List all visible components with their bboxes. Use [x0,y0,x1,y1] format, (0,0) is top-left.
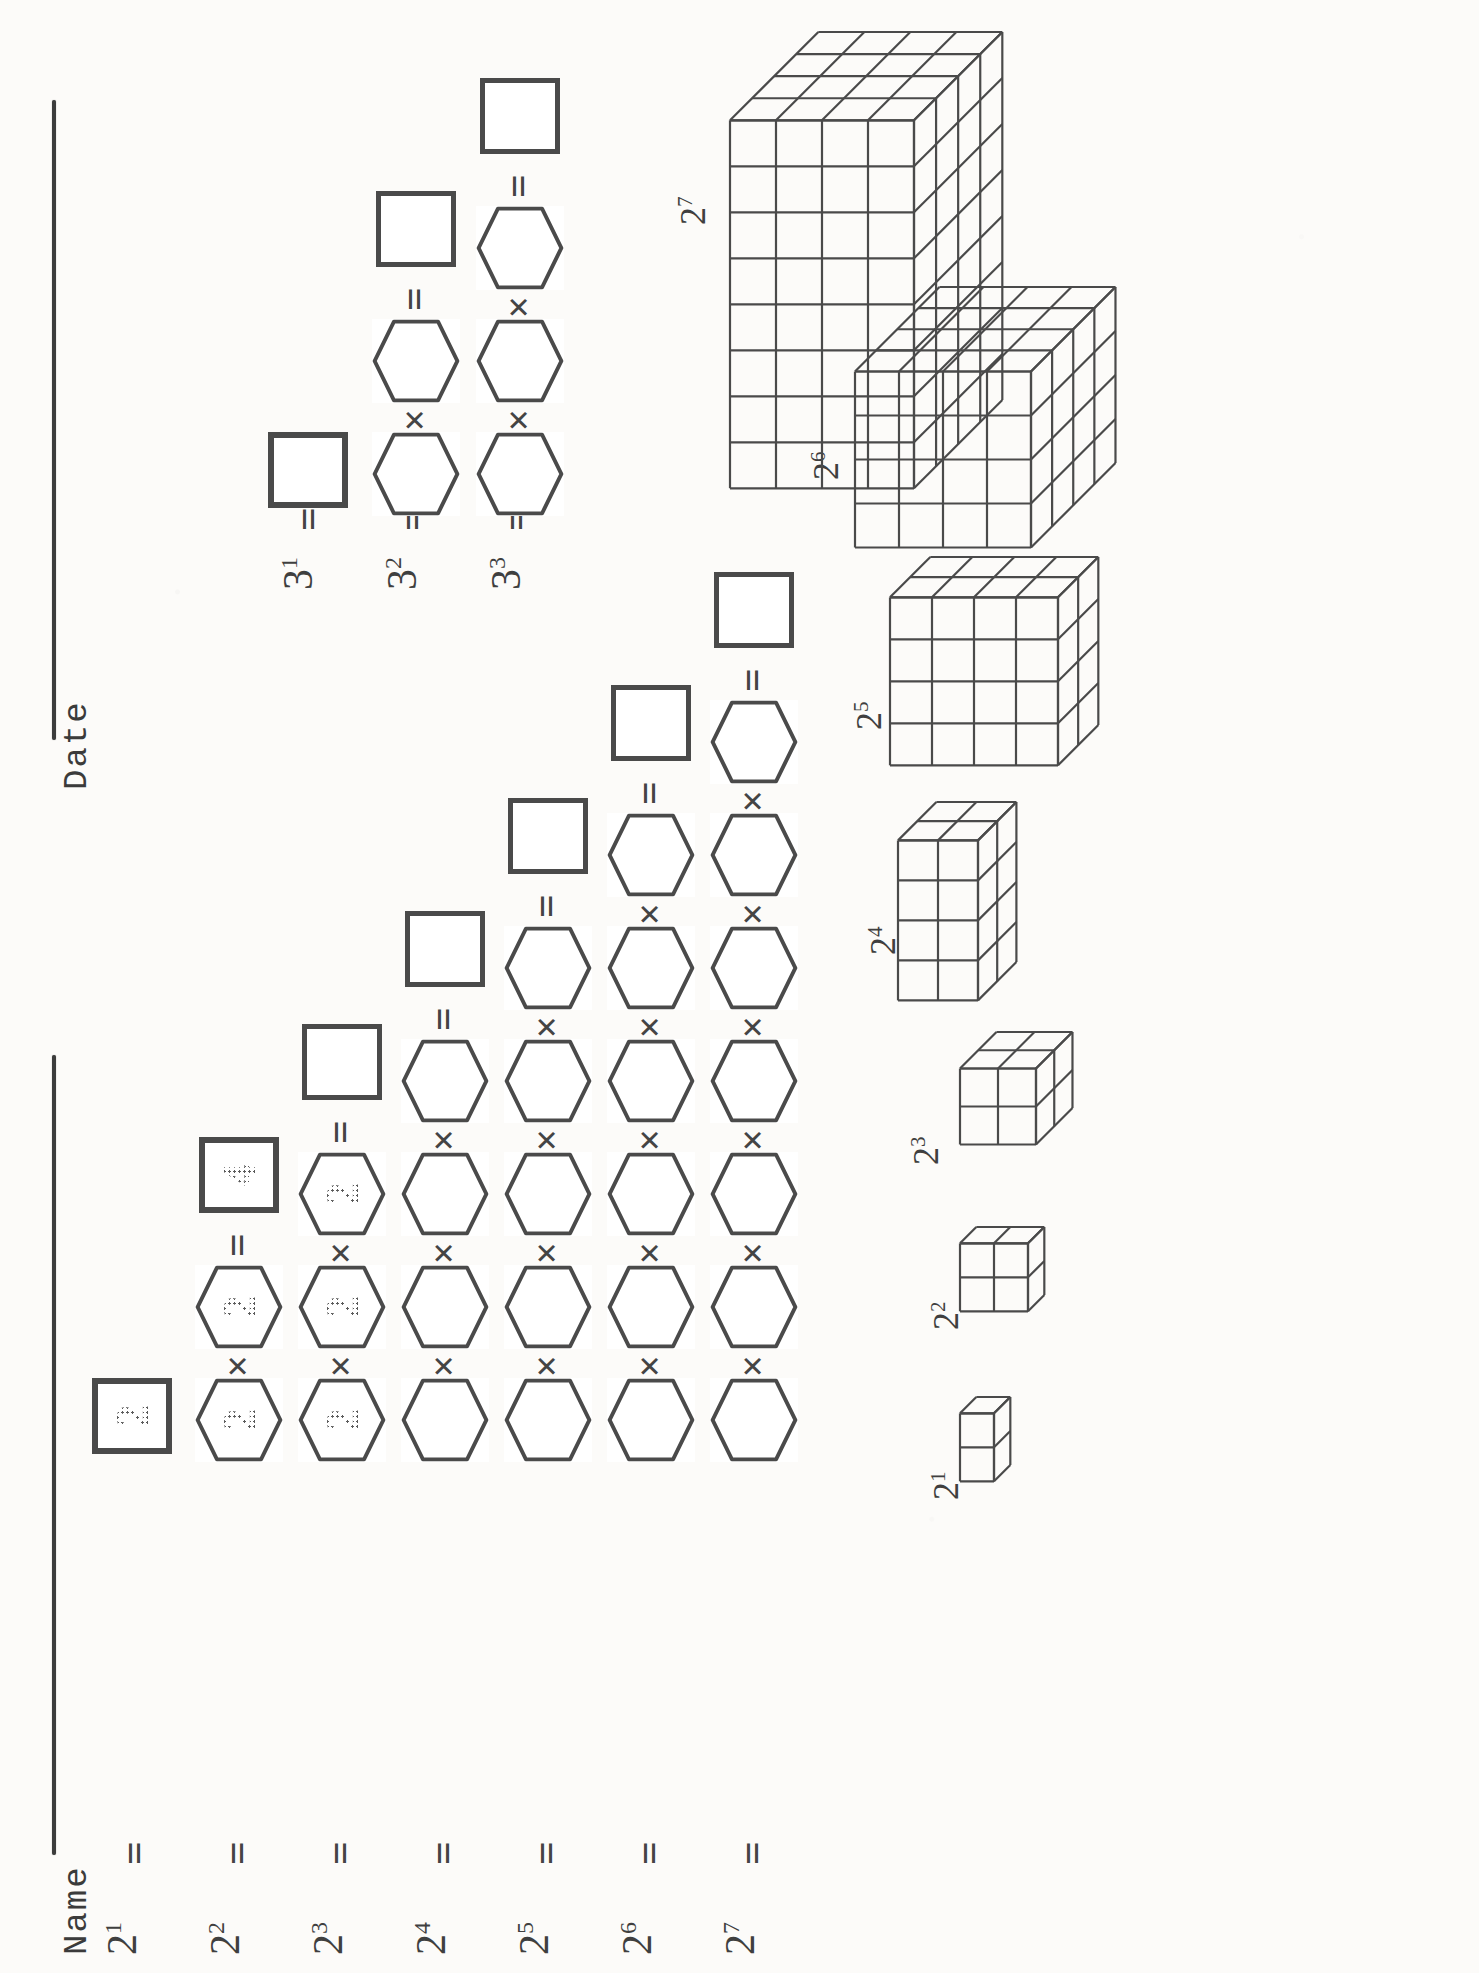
equals-operator: = [214,1823,260,1883]
result-square[interactable] [376,191,456,267]
volume-model-label-2-pow-5: 25 [848,702,890,731]
result-square[interactable] [268,432,348,508]
row-label-2-pow-7: 27 [716,1922,764,1955]
equals-operator: = [629,765,669,821]
equals-operator: = [317,1823,363,1883]
row-label-exponent: 4 [409,1922,435,1934]
cube-label-base: 2 [849,712,889,730]
row-label-exponent: 2 [380,557,406,569]
equals-operator: = [626,1823,672,1883]
equals-operator: = [217,1217,257,1273]
result-square[interactable]: 2 [92,1378,172,1454]
row-label-base: 3 [275,569,321,590]
row-label-base: 2 [305,1934,351,1955]
row-label-2-pow-5: 25 [510,1922,558,1955]
cell-value: 2 [197,1263,281,1351]
row-label-base: 2 [408,1934,454,1955]
row-label-exponent: 1 [100,1922,126,1934]
cube-label-base: 2 [673,207,713,225]
volume-model-2-pow-3 [950,1020,1086,1156]
row-label-base: 2 [717,1934,763,1955]
cell-value: 2 [100,1382,164,1450]
factor-hexagon[interactable] [607,813,695,897]
equals-operator: = [523,1823,569,1883]
volume-model-label-2-pow-4: 24 [862,927,904,956]
result-square[interactable] [302,1024,382,1100]
result-square[interactable] [405,911,485,987]
result-square[interactable] [611,685,691,761]
row-label-exponent: 5 [512,1922,538,1934]
cell-value: 4 [207,1141,271,1209]
cell-value: 2 [300,1150,384,1238]
row-label-exponent: 1 [276,557,302,569]
factor-hexagon[interactable]: 2 [298,1152,386,1236]
row-label-base: 2 [202,1934,248,1955]
equals-operator: = [498,158,538,214]
cube-label-exponent: 5 [849,702,873,713]
result-square[interactable] [480,78,560,154]
factor-hexagon[interactable] [476,206,564,290]
volume-model-2-pow-4 [888,790,1030,1012]
row-label-2-pow-1: 21 [98,1922,146,1955]
row-label-exponent: 2 [203,1922,229,1934]
equals-operator: = [111,1823,157,1883]
row-label-3-pow-3: 33 [482,557,530,590]
equals-operator: = [394,271,434,327]
row-label-base: 3 [483,569,529,590]
row-label-exponent: 3 [306,1922,332,1934]
name-write-line[interactable] [52,1055,56,1855]
cube-label-base: 2 [926,1312,966,1330]
volume-model-2-pow-5 [880,545,1112,777]
factor-hexagon[interactable] [710,700,798,784]
equals-operator: = [526,878,566,934]
factor-hexagon[interactable] [401,1039,489,1123]
row-label-2-pow-2: 22 [201,1922,249,1955]
row-label-2-pow-3: 23 [304,1922,352,1955]
result-square[interactable] [508,798,588,874]
row-label-base: 3 [379,569,425,590]
date-write-line[interactable] [52,100,56,740]
equals-operator: = [732,652,772,708]
row-label-3-pow-1: 31 [274,557,322,590]
equals-operator: = [420,1823,466,1883]
cube-label-base: 2 [863,937,903,955]
cube-label-exponent: 1 [926,1472,950,1483]
equals-operator: = [423,991,463,1047]
factor-hexagon[interactable]: 2 [195,1265,283,1349]
row-label-exponent: 7 [718,1922,744,1934]
equals-operator: = [320,1104,360,1160]
row-label-2-pow-4: 24 [407,1922,455,1955]
volume-model-label-2-pow-2: 22 [925,1302,967,1331]
cube-label-exponent: 2 [926,1302,950,1313]
worksheet-page: Name Date 21=222=2×2=423=2×2×2=24=×××=25… [0,0,1479,1973]
row-label-base: 2 [614,1934,660,1955]
cube-label-base: 2 [906,1147,946,1165]
row-label-exponent: 6 [615,1922,641,1934]
row-label-base: 2 [99,1934,145,1955]
volume-model-label-2-pow-7: 27 [672,197,714,226]
row-label-exponent: 3 [484,557,510,569]
row-label-base: 2 [511,1934,557,1955]
cube-label-base: 2 [926,1482,966,1500]
factor-hexagon[interactable] [372,319,460,403]
result-square[interactable]: 4 [199,1137,279,1213]
volume-model-label-2-pow-3: 23 [905,1137,947,1166]
equals-operator: = [729,1823,775,1883]
volume-model-2-pow-7 [720,20,1016,500]
result-square[interactable] [714,572,794,648]
row-label-3-pow-2: 32 [378,557,426,590]
row-label-2-pow-6: 26 [613,1922,661,1955]
name-label: Name [58,1865,96,1955]
cube-label-exponent: 7 [673,197,697,208]
cube-label-exponent: 4 [863,927,887,938]
cube-label-exponent: 3 [906,1137,930,1148]
factor-hexagon[interactable] [504,926,592,1010]
volume-model-label-2-pow-1: 21 [925,1472,967,1501]
date-label: Date [58,700,96,790]
